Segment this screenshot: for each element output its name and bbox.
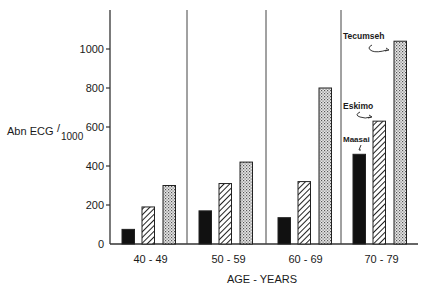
bar-tecumseh-0 — [163, 186, 176, 245]
bar-maasai-3 — [353, 154, 366, 244]
x-tick-label: 50 - 59 — [211, 253, 245, 265]
arrow-icon — [357, 112, 371, 118]
bar-maasai-0 — [122, 229, 135, 244]
legend-label-tecumseh: Tecumseh — [343, 31, 384, 41]
arrowhead-icon — [368, 115, 372, 118]
y-axis-label-sub: 1000 — [61, 131, 84, 142]
y-tick-label: 200 — [86, 199, 104, 211]
x-tick-label: 40 - 49 — [133, 253, 167, 265]
bar-tecumseh-3 — [394, 41, 407, 244]
y-tick-label: 600 — [86, 121, 104, 133]
chart-canvas: 02004006008001000 40 - 4950 - 5960 - 697… — [0, 0, 422, 291]
x-tick-label: 70 - 79 — [364, 253, 398, 265]
bar-eskimo-3 — [373, 121, 386, 244]
y-tick-label: 1000 — [80, 43, 104, 55]
category-dividers — [187, 10, 341, 244]
y-axis-label: Abn ECG / 1000 — [7, 122, 84, 142]
x-tick-labels: 40 - 4950 - 5960 - 6970 - 79 — [133, 253, 398, 265]
y-tick-label: 400 — [86, 160, 104, 172]
y-ticks: 02004006008001000 — [80, 43, 110, 250]
legend-label-maasai: Maasai — [343, 135, 370, 144]
legend-label-eskimo: Eskimo — [343, 101, 373, 111]
bar-maasai-1 — [199, 211, 212, 244]
y-tick-label: 0 — [98, 238, 104, 250]
bar-maasai-2 — [278, 218, 291, 244]
bar-eskimo-0 — [142, 207, 155, 244]
y-axis-label-main: Abn ECG — [7, 125, 53, 137]
bar-eskimo-1 — [219, 184, 232, 244]
x-tick-label: 60 - 69 — [288, 253, 322, 265]
x-axis-label: AGE - YEARS — [227, 273, 297, 285]
bar-chart: 02004006008001000 40 - 4950 - 5960 - 697… — [0, 0, 422, 291]
bar-tecumseh-2 — [319, 88, 332, 244]
bar-eskimo-2 — [298, 182, 311, 244]
arrow-icon — [359, 145, 361, 150]
bar-tecumseh-1 — [240, 162, 253, 244]
arrowhead-icon — [385, 48, 389, 51]
arrow-icon — [369, 45, 387, 52]
y-tick-label: 800 — [86, 82, 104, 94]
